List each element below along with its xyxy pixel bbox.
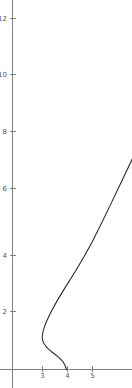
y-tick-label-2: 2 <box>3 308 7 316</box>
y-tick-label-12: 12 <box>0 15 7 23</box>
plot-background <box>0 0 132 388</box>
y-tick-label-8: 8 <box>3 128 7 136</box>
y-tick-label-10: 10 <box>0 71 7 79</box>
plot-svg: 3 4 5 2 4 6 8 10 12 <box>0 0 132 388</box>
y-tick-label-6: 6 <box>3 185 8 193</box>
y-tick-label-4: 4 <box>3 252 8 260</box>
x-tick-label-4: 4 <box>65 372 70 380</box>
x-tick-label-3: 3 <box>40 372 44 380</box>
x-tick-label-5: 5 <box>90 372 94 380</box>
plot-container: 3 4 5 2 4 6 8 10 12 <box>0 0 132 388</box>
